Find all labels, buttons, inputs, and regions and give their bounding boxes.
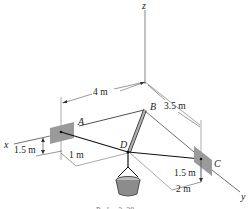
- statics-diagram: z x y 4 m 3.5 m A 1.5 m: [0, 0, 252, 209]
- cable-AD: [61, 132, 128, 152]
- point-B-label: D: [119, 139, 128, 150]
- x-axis-label: x: [3, 139, 9, 150]
- strut-BD: D B: [119, 101, 156, 152]
- dim-C-height-label: 1.5 m: [174, 168, 196, 178]
- z-axis: z: [141, 0, 146, 84]
- y-axis-label: y: [240, 191, 246, 202]
- dim-C-offset-label: 2 m: [176, 184, 191, 194]
- cable-DC: [128, 152, 201, 159]
- dimension-C-offset: 2 m: [172, 182, 201, 194]
- point-C-label: C: [214, 158, 221, 169]
- y-axis: y: [145, 82, 246, 202]
- dimension-4m: 4 m: [61, 82, 145, 160]
- cable-BC: [145, 111, 200, 157]
- dim-3-5m-label: 3.5 m: [164, 101, 186, 111]
- wall-plate-A: A: [50, 116, 85, 144]
- z-axis-label: z: [141, 0, 146, 11]
- figure-caption: Probs. 3–38: [96, 206, 134, 209]
- dimension-A-offset: 1 m: [61, 150, 128, 166]
- dim-4m-label: 4 m: [93, 87, 108, 97]
- dim-A-offset-label: 1 m: [69, 150, 84, 160]
- cable-AB-ref: [79, 110, 144, 126]
- dim-A-height-label: 1.5 m: [14, 145, 36, 155]
- wall-plate-C: C: [194, 146, 221, 176]
- point-B-text: B: [150, 101, 156, 112]
